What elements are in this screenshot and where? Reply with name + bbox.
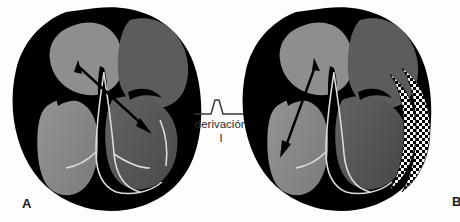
panel-b: B derivación I <box>230 0 460 222</box>
panel-a: A derivación I <box>0 0 230 222</box>
cardiac-axis-figure: A derivación I <box>0 0 460 222</box>
left-ventricle-a <box>37 99 98 195</box>
panel-label-b: B <box>452 194 460 209</box>
heart-diagram-b <box>230 0 460 222</box>
panel-label-a: A <box>22 196 32 211</box>
